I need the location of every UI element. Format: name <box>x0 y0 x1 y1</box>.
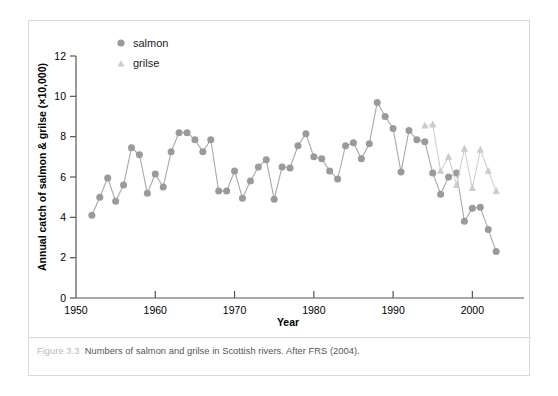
data-point-grilse <box>492 187 499 194</box>
y-axis-ticks: 024681012 <box>54 50 76 304</box>
y-tick-label: 8 <box>60 130 66 142</box>
caption-body: Numbers of salmon and grilse in Scottish… <box>85 346 360 356</box>
data-point-grilse <box>445 153 452 160</box>
data-point-salmon <box>104 175 111 182</box>
data-point-salmon <box>96 194 103 201</box>
data-point-salmon <box>366 140 373 147</box>
data-point-salmon <box>421 138 428 145</box>
data-point-salmon <box>263 156 270 163</box>
data-point-salmon <box>231 167 238 174</box>
data-point-salmon <box>318 155 325 162</box>
data-point-salmon <box>429 169 436 176</box>
y-tick-label: 2 <box>60 251 66 263</box>
data-point-salmon <box>152 170 159 177</box>
legend-grilse-triangle-icon <box>117 60 124 66</box>
data-point-salmon <box>342 142 349 149</box>
x-axis-ticks: 195019601970198019902000 <box>64 291 484 316</box>
data-point-salmon <box>191 136 198 143</box>
data-point-salmon <box>239 195 246 202</box>
x-tick-label: 1970 <box>223 304 247 316</box>
data-point-salmon <box>271 196 278 203</box>
y-tick-label: 6 <box>60 171 66 183</box>
data-point-salmon <box>413 136 420 143</box>
data-point-salmon <box>398 168 405 175</box>
chart-legend: salmon grilse <box>117 37 168 69</box>
salmon-grilse-line-chart: 024681012 195019601970198019902000 salmo… <box>29 21 531 337</box>
data-point-salmon <box>279 163 286 170</box>
data-point-salmon <box>136 151 143 158</box>
data-point-salmon <box>334 176 341 183</box>
x-tick-label: 2000 <box>461 304 485 316</box>
data-point-salmon <box>160 184 167 191</box>
data-point-salmon <box>302 130 309 137</box>
data-point-grilse <box>429 121 436 128</box>
data-point-salmon <box>199 148 206 155</box>
data-point-grilse <box>437 167 444 174</box>
data-point-salmon <box>358 155 365 162</box>
data-point-salmon <box>287 164 294 171</box>
chart-series-group <box>88 99 499 255</box>
data-point-salmon <box>176 129 183 136</box>
data-point-salmon <box>485 226 492 233</box>
figure-number: Figure 3.3 <box>37 346 79 356</box>
legend-grilse-label: grilse <box>133 57 159 69</box>
chart-plot-area: 024681012 195019601970198019902000 salmo… <box>29 21 531 337</box>
legend-salmon-label: salmon <box>133 37 168 49</box>
data-point-grilse <box>461 145 468 152</box>
figure-caption: Figure 3.3 Numbers of salmon and grilse … <box>37 345 523 358</box>
x-tick-label: 1980 <box>302 304 326 316</box>
x-tick-label: 1960 <box>144 304 168 316</box>
data-point-salmon <box>493 248 500 255</box>
data-point-salmon <box>215 188 222 195</box>
y-tick-label: 12 <box>54 50 66 62</box>
data-point-grilse <box>453 181 460 188</box>
data-point-grilse <box>469 184 476 191</box>
data-point-salmon <box>294 142 301 149</box>
data-point-salmon <box>128 144 135 151</box>
data-point-salmon <box>461 218 468 225</box>
x-axis-title: Year <box>277 316 299 328</box>
data-point-salmon <box>437 191 444 198</box>
data-point-salmon <box>382 113 389 120</box>
x-tick-label: 1990 <box>381 304 405 316</box>
data-point-salmon <box>120 182 127 189</box>
data-point-salmon <box>445 174 452 181</box>
x-tick-label: 1950 <box>64 304 88 316</box>
y-axis-title: Annual catch of salmon & grilse (×10,000… <box>36 63 48 271</box>
caption-divider <box>29 337 531 338</box>
data-point-salmon <box>255 163 262 170</box>
data-point-salmon <box>247 178 254 185</box>
data-point-salmon <box>326 167 333 174</box>
series-line-salmon <box>92 102 496 251</box>
data-point-salmon <box>88 212 95 219</box>
data-point-salmon <box>144 190 151 197</box>
y-tick-label: 0 <box>60 292 66 304</box>
data-point-salmon <box>207 136 214 143</box>
data-point-salmon <box>223 188 230 195</box>
data-point-salmon <box>374 99 381 106</box>
data-point-grilse <box>485 167 492 174</box>
data-point-salmon <box>477 204 484 211</box>
y-tick-label: 10 <box>54 90 66 102</box>
data-point-grilse <box>477 146 484 153</box>
data-point-salmon <box>183 129 190 136</box>
data-point-salmon <box>390 125 397 132</box>
y-tick-label: 4 <box>60 211 66 223</box>
data-point-salmon <box>112 198 119 205</box>
data-point-salmon <box>310 153 317 160</box>
data-point-salmon <box>469 205 476 212</box>
data-point-salmon <box>350 139 357 146</box>
data-point-salmon <box>168 148 175 155</box>
figure-container: 024681012 195019601970198019902000 salmo… <box>28 20 530 376</box>
data-point-salmon <box>405 127 412 134</box>
legend-salmon-circle-icon <box>117 39 124 46</box>
